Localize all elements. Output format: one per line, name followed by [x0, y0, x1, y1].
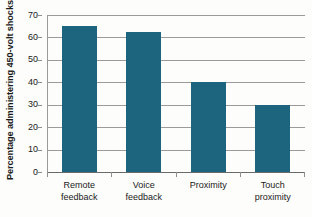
y-tick-mark: [36, 82, 42, 83]
x-tick-mark: [240, 172, 241, 177]
bar-proximity: [191, 82, 226, 172]
x-tick-mark: [304, 172, 305, 177]
y-tick-mark: [36, 172, 42, 173]
y-tick-mark: [36, 60, 42, 61]
x-label-line: feedback: [48, 192, 111, 204]
x-axis-tick-marks: [47, 172, 305, 178]
y-tick-mark: [36, 127, 42, 128]
x-label-line: Proximity: [177, 180, 240, 192]
bars-layer: [47, 15, 305, 172]
bar-slot: [241, 15, 306, 172]
y-axis-title-label: Percentage administering 450-volt shocks: [5, 0, 15, 180]
x-label-line: Voice: [113, 180, 176, 192]
x-label-proximity: Proximity: [176, 180, 241, 217]
bar-remote-feedback: [62, 26, 97, 172]
x-label-touch-proximity: Touch proximity: [241, 180, 306, 217]
y-axis-tick-labels: 70 60 50 40 30 20 10 0: [20, 0, 42, 217]
plot-area: [47, 15, 305, 172]
y-tick-mark: [36, 150, 42, 151]
x-label-line: proximity: [242, 192, 305, 204]
x-tick-mark: [47, 172, 48, 177]
bar-slot: [112, 15, 177, 172]
bar-touch-proximity: [255, 105, 290, 172]
x-axis-labels: Remote feedback Voice feedback Proximity…: [47, 180, 305, 217]
x-label-remote-feedback: Remote feedback: [47, 180, 112, 217]
x-tick-mark: [176, 172, 177, 177]
x-tick-mark: [111, 172, 112, 177]
y-tick-mark: [36, 15, 42, 16]
y-axis-title: Percentage administering 450-volt shocks: [0, 0, 20, 180]
x-label-line: Remote: [48, 180, 111, 192]
bar-slot: [47, 15, 112, 172]
bar-slot: [176, 15, 241, 172]
y-tick-mark: [36, 37, 42, 38]
bar-voice-feedback: [126, 32, 161, 172]
x-label-voice-feedback: Voice feedback: [112, 180, 177, 217]
y-tick-mark: [36, 105, 42, 106]
x-label-line: feedback: [113, 192, 176, 204]
bar-chart-figure: Percentage administering 450-volt shocks…: [0, 0, 312, 217]
x-label-line: Touch: [242, 180, 305, 192]
